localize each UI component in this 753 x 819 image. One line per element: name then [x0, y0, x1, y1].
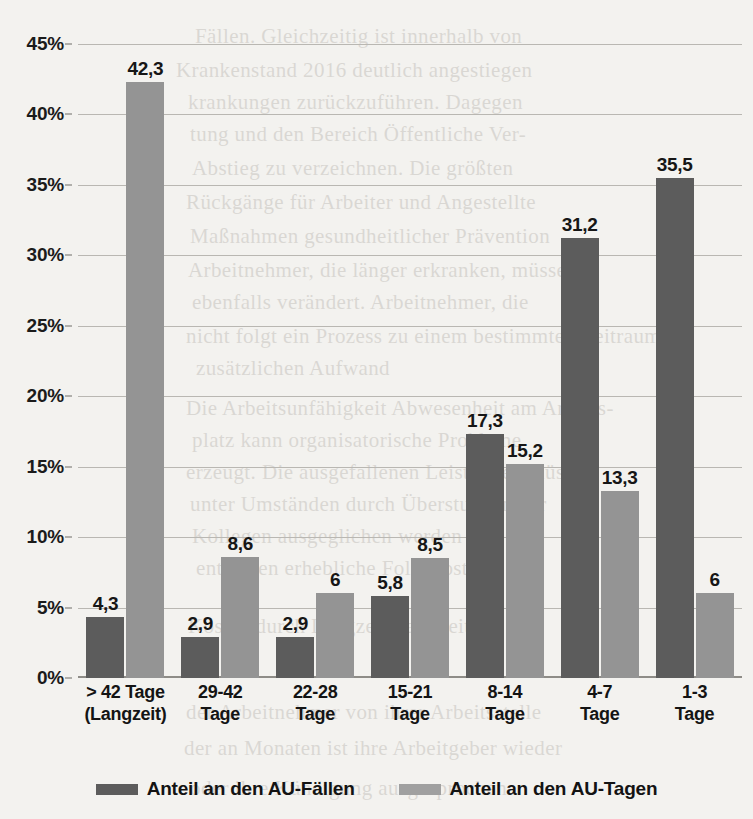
y-axis-tick-label: 25%	[27, 315, 64, 337]
y-axis-tick-mark	[65, 114, 72, 115]
bar[interactable]: 5,8	[371, 596, 409, 678]
bar-group: 2,98,6	[173, 44, 268, 678]
y-axis-tick-mark	[65, 396, 72, 397]
x-axis-category-label: 22-28Tage	[268, 682, 363, 726]
bar-group: 17,315,2	[457, 44, 552, 678]
bar[interactable]: 8,5	[411, 558, 449, 678]
bar-value-label: 2,9	[282, 613, 308, 635]
y-axis-tick-mark	[65, 184, 72, 185]
y-axis-tick-label: 15%	[27, 456, 64, 478]
y-axis-tick-mark	[65, 325, 72, 326]
y-axis-tick-label: 10%	[27, 526, 64, 548]
bar[interactable]: 2,9	[181, 637, 219, 678]
bar[interactable]: 31,2	[561, 238, 599, 678]
y-axis-tick-mark	[65, 678, 72, 679]
legend-item[interactable]: Anteil an den AU-Fällen	[96, 778, 355, 800]
bar-value-label: 2,9	[188, 613, 214, 635]
bar-group: 35,56	[647, 44, 742, 678]
y-axis: 45%40%35%30%25%20%15%10%5%0%	[0, 44, 72, 678]
y-axis-tick-label: 0%	[37, 667, 64, 689]
bar[interactable]: 6	[316, 593, 354, 678]
bar-value-label: 15,2	[507, 440, 543, 462]
x-axis-category-label: 4-7Tage	[552, 682, 647, 726]
x-axis-category-label: 1-3Tage	[647, 682, 742, 726]
bar-value-label: 4,3	[93, 593, 119, 615]
x-axis-category-label: 15-21Tage	[363, 682, 458, 726]
x-axis-labels: > 42 Tage(Langzeit)29-42Tage22-28Tage15-…	[78, 682, 742, 726]
y-axis-tick-label: 35%	[27, 174, 64, 196]
bar[interactable]: 35,5	[656, 178, 694, 678]
bar-group: 5,88,5	[363, 44, 458, 678]
y-axis-tick-label: 30%	[27, 244, 64, 266]
x-axis-category-label: 8-14Tage	[457, 682, 552, 726]
bar-group: 4,342,3	[78, 44, 173, 678]
bar-value-label: 35,5	[657, 154, 693, 176]
x-axis-category-label: 29-42Tage	[173, 682, 268, 726]
y-axis-tick-mark	[65, 607, 72, 608]
legend-color-swatch	[399, 784, 441, 795]
bar[interactable]: 8,6	[221, 557, 259, 678]
bar-value-label: 8,5	[417, 534, 443, 556]
bar[interactable]: 17,3	[466, 434, 504, 678]
bar-value-label: 8,6	[228, 533, 254, 555]
legend-label: Anteil an den AU-Fällen	[147, 778, 355, 800]
y-axis-tick-mark	[65, 44, 72, 45]
bar-value-label: 5,8	[377, 572, 403, 594]
y-axis-tick-mark	[65, 255, 72, 256]
bar[interactable]: 4,3	[86, 617, 124, 678]
bar[interactable]: 6	[696, 593, 734, 678]
chart-container: 45%40%35%30%25%20%15%10%5%0% 4,342,32,98…	[0, 0, 753, 819]
bar[interactable]: 2,9	[276, 637, 314, 678]
bar-groups: 4,342,32,98,62,965,88,517,315,231,213,33…	[78, 44, 742, 678]
bar-group: 31,213,3	[552, 44, 647, 678]
legend-label: Anteil an den AU-Tagen	[450, 778, 658, 800]
bar[interactable]: 42,3	[126, 82, 164, 678]
y-axis-tick-label: 40%	[27, 103, 64, 125]
x-axis-category-label: > 42 Tage(Langzeit)	[78, 682, 173, 726]
chart-legend: Anteil an den AU-FällenAnteil an den AU-…	[0, 778, 753, 800]
bar-value-label: 6	[709, 569, 719, 591]
bar-value-label: 42,3	[128, 58, 164, 80]
legend-color-swatch	[96, 784, 138, 795]
bar-value-label: 13,3	[602, 467, 638, 489]
y-axis-tick-mark	[65, 537, 72, 538]
y-axis-tick-mark	[65, 466, 72, 467]
bar[interactable]: 15,2	[506, 464, 544, 678]
bar[interactable]: 13,3	[601, 491, 639, 678]
y-axis-tick-label: 20%	[27, 385, 64, 407]
bar-value-label: 31,2	[562, 214, 598, 236]
bar-value-label: 6	[330, 569, 340, 591]
bar-value-label: 17,3	[467, 410, 503, 432]
legend-item[interactable]: Anteil an den AU-Tagen	[399, 778, 658, 800]
y-axis-tick-label: 5%	[37, 597, 64, 619]
bar-group: 2,96	[268, 44, 363, 678]
y-axis-tick-label: 45%	[27, 33, 64, 55]
